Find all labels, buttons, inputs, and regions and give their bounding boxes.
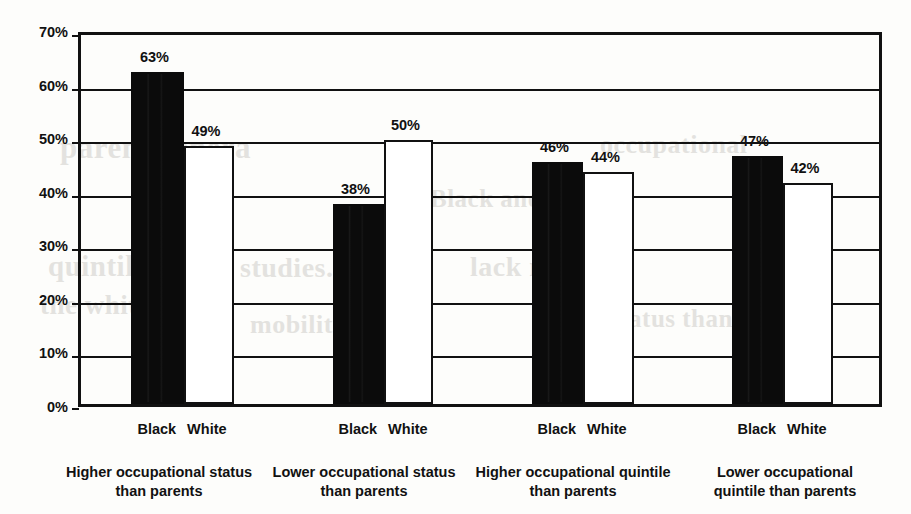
series-names-group4: BlackWhite — [722, 422, 842, 437]
bar-group4-black — [732, 156, 783, 404]
group-caption-1-line-2: than parents — [48, 482, 270, 501]
value-label-group4-white: 42% — [765, 161, 845, 176]
group-caption-2: Lower occupational status than parents — [255, 463, 473, 500]
value-label-group1-black: 63% — [115, 50, 195, 65]
series-names-group3: BlackWhite — [522, 422, 642, 437]
y-tick-30 — [72, 249, 79, 251]
value-label-group2-black: 38% — [316, 182, 396, 197]
bar-group4-white — [783, 183, 833, 404]
y-tick-50 — [72, 142, 79, 144]
bar-group2-white — [384, 140, 433, 404]
bar-group3-black — [532, 162, 583, 404]
y-tick-20 — [72, 303, 79, 305]
bar-group3-white — [583, 172, 634, 404]
series-name-white-group3: White — [587, 421, 626, 437]
series-name-white-group4: White — [787, 421, 826, 437]
group-caption-4: Lower occupational quintile than parents — [683, 463, 887, 500]
y-tick-40 — [72, 196, 79, 198]
y-axis-label-40: 40% — [39, 185, 68, 200]
y-axis: 70% 60% 50% 40% 30% 20% 10% 0% — [0, 32, 68, 407]
series-name-white-group2: White — [388, 421, 427, 437]
y-tick-70 — [72, 35, 79, 37]
gridline-60 — [81, 89, 879, 91]
value-label-group4-black: 47% — [715, 134, 795, 149]
bar-group1-white — [184, 146, 234, 404]
group-caption-2-line-2: than parents — [255, 482, 473, 501]
group-caption-4-line-2: quintile than parents — [683, 482, 887, 501]
bar-group2-black — [333, 204, 384, 404]
value-label-group2-white: 50% — [366, 118, 446, 133]
group-caption-2-line-1: Lower occupational status — [255, 463, 473, 482]
bar-group1-black — [131, 72, 184, 404]
series-name-black-group4: Black — [737, 421, 776, 437]
group-caption-1: Higher occupational status than parents — [48, 463, 270, 500]
y-axis-label-0: 0% — [47, 400, 68, 415]
group-caption-4-line-1: Lower occupational — [683, 463, 887, 482]
series-name-black-group1: Black — [137, 421, 176, 437]
y-axis-label-70: 70% — [39, 25, 68, 40]
series-name-black-group2: Black — [338, 421, 377, 437]
plot-area — [78, 32, 882, 407]
occupational-mobility-bar-chart: parent genera quintiles (V, studies. The… — [0, 0, 911, 514]
value-label-group3-white: 44% — [566, 150, 646, 165]
y-axis-label-30: 30% — [39, 239, 68, 254]
y-tick-60 — [72, 89, 79, 91]
group-caption-3-line-2: than parents — [459, 482, 687, 501]
group-caption-3-line-1: Higher occupational quintile — [459, 463, 687, 482]
series-names-group1: BlackWhite — [122, 422, 242, 437]
y-axis-label-20: 20% — [39, 293, 68, 308]
group-caption-3: Higher occupational quintile than parent… — [459, 463, 687, 500]
y-tick-10 — [72, 356, 79, 358]
y-axis-label-10: 10% — [39, 346, 68, 361]
group-caption-1-line-1: Higher occupational status — [48, 463, 270, 482]
value-label-group1-white: 49% — [166, 124, 246, 139]
series-name-white-group1: White — [187, 421, 226, 437]
y-axis-label-60: 60% — [39, 78, 68, 93]
y-axis-label-50: 50% — [39, 132, 68, 147]
y-tick-0 — [72, 408, 79, 410]
series-names-group2: BlackWhite — [323, 422, 443, 437]
series-name-black-group3: Black — [537, 421, 576, 437]
